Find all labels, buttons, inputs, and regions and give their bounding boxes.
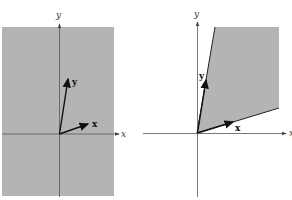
vector-y-label: y — [71, 77, 78, 87]
y-axis-label: y — [55, 10, 62, 20]
cone-region — [197, 27, 279, 133]
span-region — [2, 27, 114, 196]
right-panel: x y x y — [143, 9, 292, 197]
x-axis-label: x — [121, 129, 126, 139]
vector-x-label: x — [92, 119, 98, 129]
x-axis-label: x — [289, 128, 292, 138]
y-axis-label: y — [193, 9, 200, 19]
figure-canvas: x y x y x y x y — [0, 0, 292, 200]
vector-y-label: y — [198, 71, 205, 81]
left-panel: x y x y — [2, 10, 126, 197]
vector-x-label: x — [235, 123, 241, 133]
